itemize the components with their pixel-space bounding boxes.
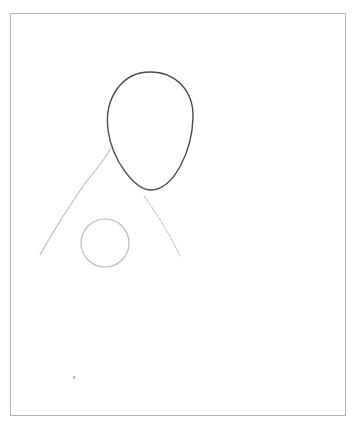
right-shoulder-line bbox=[144, 196, 180, 256]
sketch-paper bbox=[0, 0, 354, 427]
frame-border bbox=[11, 14, 346, 416]
left-shoulder-line bbox=[40, 148, 111, 255]
pencil-dot bbox=[74, 376, 75, 379]
pencil-sketch bbox=[0, 0, 354, 427]
small-circle bbox=[81, 219, 129, 267]
head-oval bbox=[107, 72, 193, 190]
